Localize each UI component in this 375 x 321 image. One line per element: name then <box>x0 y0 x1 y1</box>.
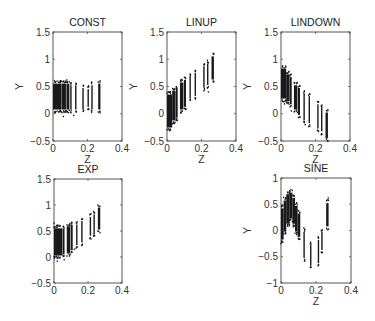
y-tick-label: 0 <box>272 108 278 119</box>
subplot-exp: EXP−0.500.511.500.20.4 <box>31 163 129 296</box>
y-tick-label: 1 <box>158 54 164 65</box>
subplot-title: CONST <box>69 16 106 28</box>
subplot-sine: SINE−1−0.500.5100.20.4ZY <box>241 162 358 307</box>
y-tick-label: 1.5 <box>36 27 50 38</box>
x-tick-label: 0 <box>51 285 57 296</box>
y-tick-label: −0.5 <box>258 251 278 262</box>
y-tick-label: −0.5 <box>144 136 164 147</box>
subplot-const: CONST−0.500.511.500.20.4ZY <box>13 16 129 165</box>
subplot-title: LINDOWN <box>291 16 341 28</box>
figure-canvas: CONST−0.500.511.500.20.4ZY LINUP−0.500.5… <box>0 0 375 321</box>
y-tick-label: 0.5 <box>150 81 164 92</box>
x-tick-label: 0.2 <box>81 285 95 296</box>
x-tick-label: 0 <box>50 143 56 154</box>
subplot-linup: LINUP−0.500.511.500.20.4ZY <box>127 16 243 165</box>
x-tick-label: 0 <box>164 143 170 154</box>
x-tick-label: 0.4 <box>229 143 243 154</box>
subplot-title: EXP <box>77 163 98 175</box>
y-tick-label: 1 <box>45 200 51 211</box>
y-tick-label: 1.5 <box>37 174 51 185</box>
y-tick-label: 0.5 <box>37 226 51 237</box>
x-tick-label: 0 <box>278 143 284 154</box>
y-tick-label: −1 <box>267 278 279 289</box>
x-tick-label: 0.4 <box>343 143 357 154</box>
axes-frame <box>167 32 236 141</box>
x-tick-label: 0.4 <box>344 285 358 296</box>
y-tick-label: 1.5 <box>264 27 278 38</box>
x-tick-label: 0.4 <box>115 285 129 296</box>
subplot-title: SINE <box>304 162 329 174</box>
y-tick-label: 0 <box>272 225 278 236</box>
x-axis-label: Z <box>198 153 205 165</box>
y-axis-label: Y <box>241 227 253 234</box>
x-tick-label: 0.4 <box>115 143 129 154</box>
y-tick-label: 0.5 <box>264 81 278 92</box>
y-tick-label: 1 <box>44 54 50 65</box>
y-axis-label: Y <box>127 83 139 90</box>
y-tick-label: 1 <box>272 173 278 184</box>
subplot-title: LINUP <box>186 16 217 28</box>
x-tick-label: 0 <box>278 285 284 296</box>
y-tick-label: −0.5 <box>31 278 51 289</box>
y-tick-label: 1 <box>272 54 278 65</box>
y-tick-label: −0.5 <box>258 136 278 147</box>
y-tick-label: 0.5 <box>264 199 278 210</box>
y-tick-label: 0.5 <box>36 81 50 92</box>
y-tick-label: −0.5 <box>30 136 50 147</box>
y-axis-label: Y <box>241 83 253 90</box>
y-tick-label: 0 <box>158 108 164 119</box>
y-tick-label: 0 <box>45 252 51 263</box>
y-tick-label: 0 <box>44 108 50 119</box>
x-axis-label: Z <box>313 295 320 307</box>
subplot-lindown: LINDOWN−0.500.511.500.20.4ZY <box>241 16 357 165</box>
y-axis-label: Y <box>13 83 25 90</box>
y-tick-label: 1.5 <box>150 27 164 38</box>
